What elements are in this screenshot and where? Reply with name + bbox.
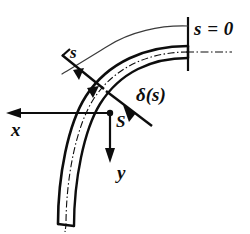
figure-canvas: s = 0 s δ(s) S x y [0, 0, 250, 234]
section-point-marker [107, 110, 113, 116]
label-axis-y: y [117, 163, 125, 182]
label-arc-coordinate-s: s [70, 44, 77, 61]
label-axis-x: x [11, 120, 21, 139]
arc-length-tick [62, 49, 70, 56]
deflection-arrowhead-upper [73, 68, 84, 80]
label-section-point-s: S [116, 113, 125, 130]
y-axis [105, 113, 115, 163]
beam-inner-edge [74, 58, 188, 226]
deflection-arrow-upper-shaft [62, 55, 104, 89]
y-axis-arrowhead [105, 148, 115, 163]
x-axis-arrowhead [6, 108, 21, 118]
label-s-equals-zero: s = 0 [194, 19, 234, 38]
label-deflection-delta-s: δ(s) [136, 85, 166, 104]
